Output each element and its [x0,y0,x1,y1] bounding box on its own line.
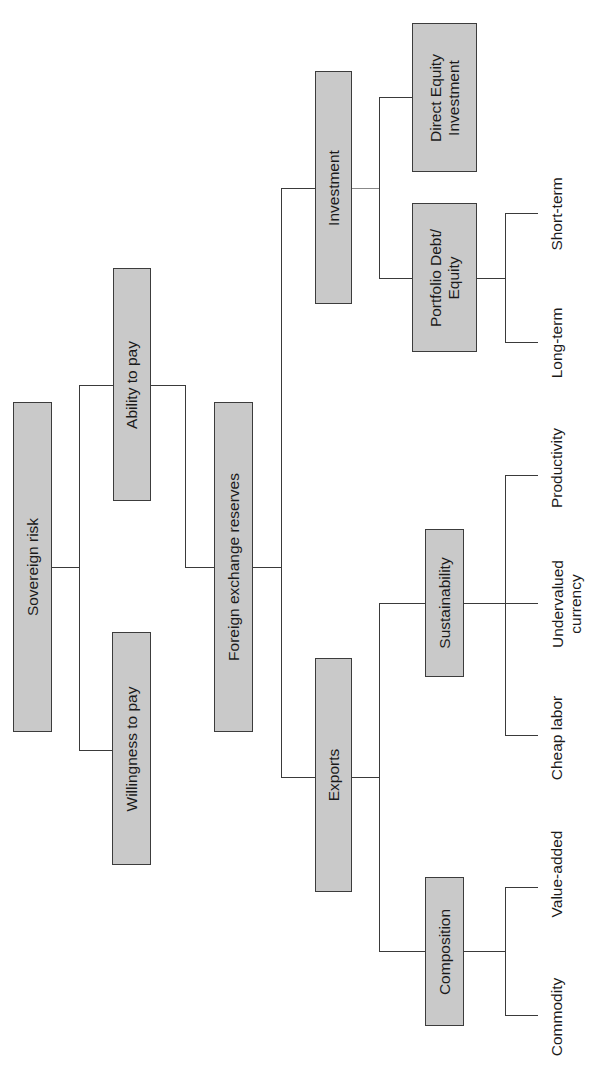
node-label: Direct Equity Investment [427,54,463,142]
node-label-line2: Equity [445,256,462,299]
leaf-label: Productivity [548,427,566,507]
connector [352,188,379,189]
connector [505,735,538,736]
connector [477,278,505,279]
connector [505,887,506,1016]
node-label: Portfolio Debt/ Equity [427,228,463,326]
connector [379,603,380,952]
node-label: Ability to pay [123,341,141,429]
connector [281,188,282,778]
connector [505,1015,538,1016]
connector [79,750,112,751]
node-label-line1: Portfolio Debt/ [427,228,444,326]
node-label: Willingness to pay [123,686,141,811]
connector [464,951,505,952]
connector [505,342,538,343]
node-sustainability: Sustainability [425,529,464,677]
connector [281,777,315,778]
node-label: Sovereign risk [24,518,42,616]
node-investment: Investment [315,71,352,304]
leaf-long-term: Long-term [556,342,557,343]
node-sovereign-risk: Sovereign risk [13,402,52,732]
node-portfolio-debt-equity: Portfolio Debt/ Equity [412,203,477,352]
connector [185,385,186,568]
connector [505,475,538,476]
node-foreign-exchange-reserves: Foreign exchange reserves [214,402,253,732]
connector [185,567,214,568]
node-ability-to-pay: Ability to pay [113,268,151,501]
leaf-label: Cheap labor [548,695,566,779]
connector [352,777,379,778]
connector [79,385,80,750]
leaf-short-term: Short-term [556,213,557,214]
sovereign-risk-tree-diagram: Sovereign risk Ability to pay Willingnes… [0,0,611,1091]
connector [281,188,315,189]
leaf-label: Value-added [548,830,566,917]
connector [52,567,79,568]
node-composition: Composition [425,877,464,1026]
node-label: Composition [436,908,454,994]
leaf-label: Undervalued currency [549,560,585,648]
node-exports: Exports [315,658,352,892]
leaf-cheap-labor: Cheap labor [556,737,557,738]
leaf-value-added: Value-added [556,873,557,874]
connector [379,951,425,952]
connector [79,385,113,386]
connector [505,475,506,736]
leaf-label-line1: Undervalued [549,560,566,648]
node-label-line1: Direct Equity [427,54,444,142]
connector [379,603,425,604]
node-willingness-to-pay: Willingness to pay [112,632,151,865]
connector [505,213,538,214]
node-label-line2: Investment [445,60,462,136]
leaf-label: Short-term [548,177,566,250]
leaf-label: Long-term [548,307,566,378]
connector [505,887,538,888]
connector [379,97,380,279]
leaf-productivity: Productivity [556,467,557,468]
node-label: Exports [325,749,343,802]
node-label: Foreign exchange reserves [225,473,243,661]
leaf-undervalued-currency: Undervalued currency [566,603,567,604]
connector [379,278,412,279]
node-label: Investment [325,150,343,226]
connector [151,385,186,386]
connector [505,213,506,343]
leaf-label-line2: currency [567,574,584,633]
node-direct-equity-investment: Direct Equity Investment [412,23,477,172]
connector [253,567,282,568]
leaf-label: Commodity [548,977,566,1055]
connector [464,603,538,604]
node-label: Sustainability [436,557,454,648]
connector [379,97,412,98]
leaf-commodity: Commodity [556,1016,557,1017]
